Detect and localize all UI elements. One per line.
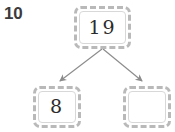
left-part-box[interactable]: 8	[33, 86, 81, 128]
whole-value: 19	[88, 17, 116, 37]
number-bond-worksheet: 10 19 8	[0, 0, 175, 132]
left-part-value: 8	[50, 96, 64, 116]
arrow-to-right-part	[103, 49, 142, 81]
arrow-to-left-part	[60, 49, 102, 81]
question-number: 10	[4, 5, 22, 23]
right-part-box-inner-border	[128, 91, 166, 123]
whole-box[interactable]: 19	[74, 6, 131, 49]
right-part-box[interactable]	[123, 86, 171, 128]
